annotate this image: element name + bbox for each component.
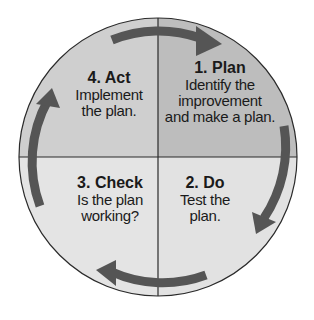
pdca-cycle-diagram [0,0,314,320]
quadrant-check-title: 3. Check [60,173,160,192]
quadrant-plan-title: 1. Plan [158,58,282,77]
quadrant-check: 3. Check Is the plan working? [60,173,160,224]
quadrant-plan: 1. Plan Identify the improvement and mak… [158,58,282,125]
quadrant-act-title: 4. Act [62,68,156,87]
quadrant-plan-line-3: and make a plan. [158,109,282,125]
quadrant-do-line-1: Test the [166,192,244,208]
quadrant-act-line-1: Implement [62,87,156,103]
quadrant-check-line-2: working? [60,208,160,224]
quadrant-plan-line-2: improvement [158,93,282,109]
quadrant-check-line-1: Is the plan [60,192,160,208]
quadrant-do-line-2: plan. [166,208,244,224]
quadrant-act: 4. Act Implement the plan. [62,68,156,119]
quadrant-plan-line-1: Identify the [158,77,282,93]
quadrant-do: 2. Do Test the plan. [166,173,244,224]
quadrant-act-line-2: the plan. [62,103,156,119]
quadrant-do-title: 2. Do [166,173,244,192]
